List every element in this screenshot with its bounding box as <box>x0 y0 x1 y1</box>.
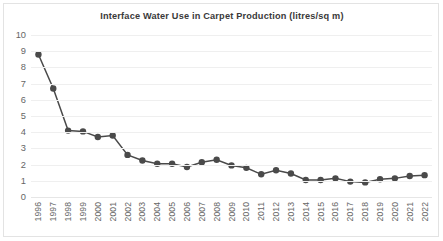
x-tick-label-2007: 2007 <box>197 202 207 221</box>
gridline-1 <box>31 181 432 182</box>
x-tick-label-2010: 2010 <box>241 202 251 221</box>
chart-title: Interface Water Use in Carpet Production… <box>4 11 440 21</box>
data-point-2008 <box>213 157 219 163</box>
x-tick-label-2003: 2003 <box>137 202 147 221</box>
x-tick-label-2019: 2019 <box>375 202 385 221</box>
y-tick-label-5: 5 <box>21 111 26 121</box>
x-tick-label-2015: 2015 <box>316 202 326 221</box>
x-tick-label-1999: 1999 <box>78 202 88 221</box>
y-tick-label-9: 9 <box>21 46 26 56</box>
gridline-2 <box>31 165 432 166</box>
gridline-9 <box>31 51 432 52</box>
x-tick-label-1997: 1997 <box>48 202 58 221</box>
data-point-2011 <box>258 171 264 177</box>
x-tick-label-1996: 1996 <box>33 202 43 221</box>
y-tick-label-3: 3 <box>21 143 26 153</box>
x-tick-label-2008: 2008 <box>212 202 222 221</box>
data-point-1996 <box>35 51 41 57</box>
gridline-3 <box>31 148 432 149</box>
data-point-2012 <box>273 167 279 173</box>
x-tick-label-2021: 2021 <box>405 202 415 221</box>
gridline-4 <box>31 132 432 133</box>
y-tick-label-2: 2 <box>21 160 26 170</box>
gridline-8 <box>31 67 432 68</box>
x-tick-label-2018: 2018 <box>360 202 370 221</box>
plot-area <box>31 35 432 197</box>
data-point-2003 <box>139 157 145 163</box>
gridline-0 <box>31 197 432 198</box>
data-point-1997 <box>50 85 56 91</box>
y-tick-label-7: 7 <box>21 79 26 89</box>
gridline-10 <box>31 35 432 36</box>
x-tick-label-2004: 2004 <box>152 202 162 221</box>
y-tick-label-4: 4 <box>21 127 26 137</box>
x-tick-label-2001: 2001 <box>108 202 118 221</box>
x-tick-label-2002: 2002 <box>123 202 133 221</box>
x-tick-label-1998: 1998 <box>63 202 73 221</box>
x-tick-label-2012: 2012 <box>271 202 281 221</box>
gridline-7 <box>31 84 432 85</box>
x-tick-label-2017: 2017 <box>345 202 355 221</box>
y-tick-label-6: 6 <box>21 95 26 105</box>
chart-container: Interface Water Use in Carpet Production… <box>3 3 439 237</box>
data-point-2000 <box>95 134 101 140</box>
y-tick-label-10: 10 <box>16 30 26 40</box>
x-axis-tick-labels: 1996199719981999200020012002200320042005… <box>31 200 432 241</box>
y-tick-label-1: 1 <box>21 176 26 186</box>
y-tick-label-0: 0 <box>21 192 26 202</box>
x-tick-label-2009: 2009 <box>227 202 237 221</box>
y-axis-tick-labels: 012345678910 <box>4 35 28 197</box>
gridline-5 <box>31 116 432 117</box>
x-tick-label-2022: 2022 <box>420 202 430 221</box>
x-tick-label-2013: 2013 <box>286 202 296 221</box>
x-tick-label-2000: 2000 <box>93 202 103 221</box>
x-tick-label-2005: 2005 <box>167 202 177 221</box>
x-tick-label-2006: 2006 <box>182 202 192 221</box>
x-tick-label-2020: 2020 <box>390 202 400 221</box>
data-point-2013 <box>288 170 294 176</box>
x-tick-label-2011: 2011 <box>256 202 266 221</box>
data-point-2022 <box>421 172 427 178</box>
data-point-2002 <box>124 152 130 158</box>
data-point-2010 <box>243 165 249 171</box>
y-tick-label-8: 8 <box>21 62 26 72</box>
data-point-2021 <box>407 173 413 179</box>
x-tick-label-2016: 2016 <box>330 202 340 221</box>
x-tick-label-2014: 2014 <box>301 202 311 221</box>
data-point-2001 <box>109 132 115 138</box>
gridline-6 <box>31 100 432 101</box>
